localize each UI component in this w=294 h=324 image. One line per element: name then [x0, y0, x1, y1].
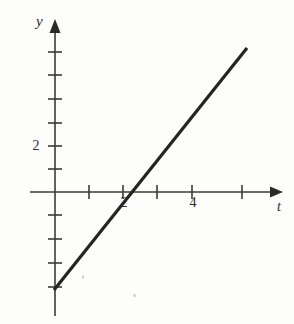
y-tick-label-2: 2	[29, 139, 43, 153]
y-axis-arrowhead	[50, 19, 61, 33]
data-line-series-0	[54, 48, 247, 290]
graph-figure: y t 2 4 2	[0, 0, 294, 324]
x-axis-arrowhead	[270, 187, 283, 198]
x-tick-label-2: 2	[116, 196, 132, 210]
y-axis-label: y	[36, 14, 43, 29]
scan-speck	[133, 294, 136, 297]
scan-speck	[82, 275, 84, 279]
plot-canvas	[0, 0, 294, 324]
x-axis-label: t	[277, 200, 281, 214]
x-tick-label-4: 4	[185, 196, 201, 210]
